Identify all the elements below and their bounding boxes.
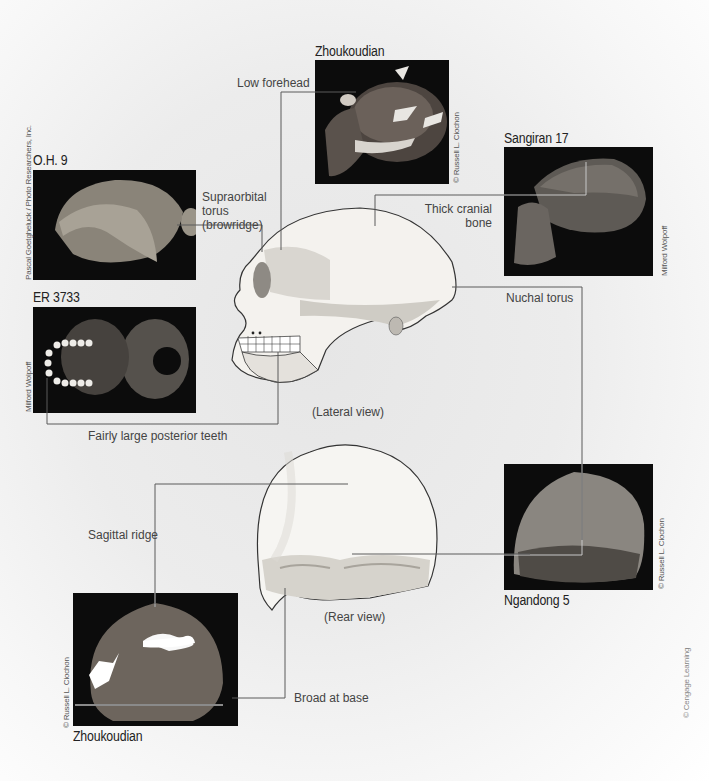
label-line: torus <box>202 204 267 218</box>
label-line: bone <box>420 216 492 230</box>
rear-skull-drawing <box>257 445 437 610</box>
label-nuchal-torus: Nuchal torus <box>506 291 573 305</box>
label-line: Thick cranial <box>420 202 492 216</box>
label-broad-at-base: Broad at base <box>294 691 369 705</box>
skull-illustrations <box>0 0 709 781</box>
label-posterior-teeth: Fairly large posterior teeth <box>88 429 227 443</box>
label-rear-view: (Rear view) <box>324 610 385 624</box>
label-sagittal-ridge: Sagittal ridge <box>88 528 158 542</box>
label-line: (browridge) <box>202 218 267 232</box>
publisher-credit: © Cengage Learning <box>682 648 691 718</box>
lateral-skull-drawing <box>232 208 456 382</box>
label-supraorbital-torus: Supraorbital torus (browridge) <box>202 190 267 232</box>
label-thick-cranial-bone: Thick cranial bone <box>420 202 492 230</box>
label-low-forehead: Low forehead <box>237 76 310 90</box>
label-line: Supraorbital <box>202 190 267 204</box>
label-lateral-view: (Lateral view) <box>312 405 384 419</box>
